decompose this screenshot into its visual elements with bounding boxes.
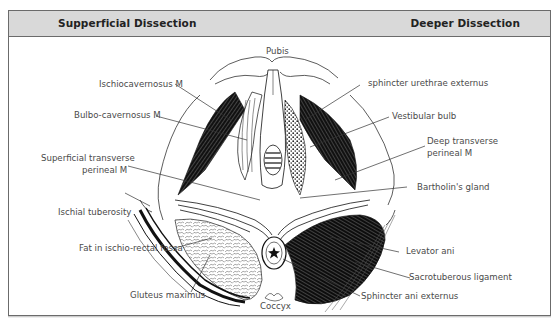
bulbo-cavernosus-label: Bulbo-cavernosus M — [74, 110, 161, 121]
coccyx-label: Coccyx — [260, 301, 291, 312]
vaginal-orifice — [264, 145, 282, 175]
superficial-transverse-label-line2: perineal M — [82, 165, 127, 176]
fat-ischio-rectal-label: Fat in ischio-rectal fossa — [79, 243, 183, 254]
sacrotuberous-ligament-label: Sacrotuberous ligament — [409, 272, 512, 283]
deep-transverse-muscle — [300, 95, 357, 190]
vestibular-bulb-label: Vestibular bulb — [392, 111, 456, 122]
sphincter-ani-externus-label: Sphincter ani externus — [361, 291, 458, 302]
deep-transverse-label-line1: Deep transverse — [427, 136, 498, 147]
bartholins-gland-label: Bartholin's gland — [417, 182, 490, 193]
gluteus-maximus-label: Gluteus maximus — [130, 290, 205, 301]
pubis-label: Pubis — [266, 46, 289, 57]
coccyx-shape — [265, 293, 283, 301]
levator-ani-label: Levator ani — [406, 246, 454, 257]
superficial-transverse-label-line1: Superficial transverse — [41, 153, 135, 164]
ischial-tuberosity-label: Ischial tuberosity — [58, 207, 131, 218]
ischiocavernosus-label: Ischiocavernosus M — [99, 79, 183, 90]
deep-transverse-label-line2: perineal M — [427, 148, 472, 159]
sphincter-urethrae-label: sphincter urethrae externus — [368, 78, 488, 89]
